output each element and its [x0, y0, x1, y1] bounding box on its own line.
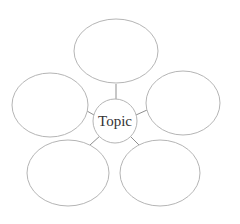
node-bottom-right: [120, 140, 200, 206]
node-left: [12, 73, 88, 137]
node-right: [146, 71, 220, 135]
connector-left: [87, 111, 94, 115]
node-top: [74, 19, 158, 83]
connector-bottom-right: [130, 136, 139, 145]
node-bottom-left: [27, 140, 109, 206]
center-topic-label: Topic: [98, 113, 132, 129]
connector-right: [136, 110, 147, 115]
concept-web-diagram: Topic: [0, 0, 240, 224]
